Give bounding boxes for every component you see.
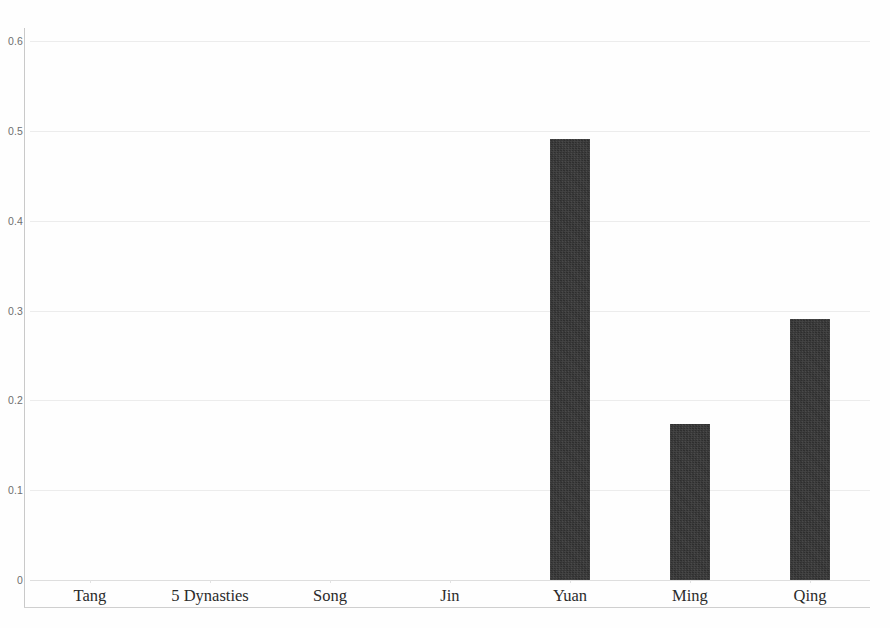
y-tick-label: 0.5 xyxy=(8,125,23,137)
y-tick-label: 0.6 xyxy=(8,35,23,47)
gridline-0.1 xyxy=(30,490,870,491)
y-tick-label: 0 xyxy=(17,574,23,586)
y-tick-label: 0.4 xyxy=(8,215,23,227)
gridline-0.2 xyxy=(30,400,870,401)
y-tick-label: 0.1 xyxy=(8,484,23,496)
figure-bottom-rule xyxy=(24,607,870,608)
bar-yuan xyxy=(550,139,590,580)
x-tick-label-tang: Tang xyxy=(74,586,107,606)
x-tick-label-qing: Qing xyxy=(794,586,827,606)
x-tick-mark xyxy=(450,580,451,583)
x-tick-mark xyxy=(810,580,811,583)
x-tick-label-5-dynasties: 5 Dynasties xyxy=(171,586,248,606)
x-tick-label-jin: Jin xyxy=(440,586,459,606)
x-tick-label-yuan: Yuan xyxy=(553,586,587,606)
y-tick-label: 0.3 xyxy=(8,305,23,317)
gridline-0.6 xyxy=(30,41,870,42)
gridline-0.5 xyxy=(30,131,870,132)
gridline-0.4 xyxy=(30,221,870,222)
x-tick-mark xyxy=(210,580,211,583)
x-tick-mark xyxy=(330,580,331,583)
y-tick-label: 0.2 xyxy=(8,394,23,406)
x-tick-mark xyxy=(690,580,691,583)
x-tick-mark xyxy=(90,580,91,583)
x-tick-label-ming: Ming xyxy=(672,586,708,606)
y-axis-line xyxy=(24,28,25,608)
bar-qing xyxy=(790,319,830,580)
plot-area: 00.10.20.30.40.50.6 xyxy=(30,41,870,580)
x-tick-label-song: Song xyxy=(313,586,347,606)
gridline-0.3 xyxy=(30,311,870,312)
bar-chart-figure: 00.10.20.30.40.50.6 Tang5 DynastiesSongJ… xyxy=(0,0,890,628)
bar-ming xyxy=(670,424,710,580)
x-tick-mark xyxy=(570,580,571,583)
